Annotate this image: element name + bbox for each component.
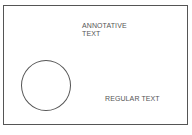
annotative-text-line1: ANNOTATIVE [82,22,127,30]
annotative-text: ANNOTATIVE TEXT [82,22,127,38]
circle-shape [21,60,71,111]
annotative-text-line2: TEXT [82,30,127,38]
regular-text: REGULAR TEXT [105,95,160,103]
